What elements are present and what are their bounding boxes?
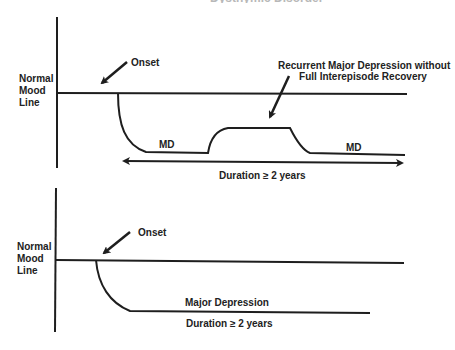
bottom-normal-mood-label: Normal Mood Line [17, 241, 51, 277]
top-label-line: Line [19, 97, 53, 109]
annotation-line-2: Full Interepisode Recovery [278, 71, 448, 82]
bottom-duration-label: Duration ≥ 2 years [186, 318, 273, 329]
top-onset-arrow-icon [102, 62, 127, 83]
bottom-panel [55, 188, 404, 332]
bottom-label-normal: Normal [17, 241, 51, 253]
md-episode-2-label: MD [346, 142, 362, 153]
top-label-normal: Normal [19, 73, 53, 85]
top-normal-mood-line [57, 93, 407, 94]
bottom-vertical-axis [55, 188, 56, 332]
annotation-arrow-icon [270, 76, 289, 117]
annotation-line-1: Recurrent Major Depression without [278, 60, 448, 71]
top-normal-mood-label: Normal Mood Line [19, 73, 53, 109]
duration-double-arrow-icon [124, 161, 402, 163]
bottom-label-mood: Mood [17, 253, 51, 265]
top-label-mood: Mood [19, 85, 53, 97]
bottom-onset-arrow-icon [104, 232, 130, 253]
top-onset-label: Onset [131, 57, 159, 68]
bottom-label-line: Line [17, 265, 51, 277]
recurrent-md-annotation: Recurrent Major Depression without Full … [278, 60, 448, 82]
major-depression-label: Major Depression [185, 297, 269, 308]
bottom-onset-label: Onset [138, 227, 166, 238]
top-duration-label: Duration ≥ 2 years [219, 170, 306, 181]
bottom-normal-mood-line [56, 260, 404, 263]
md-episode-1-label: MD [159, 139, 175, 150]
